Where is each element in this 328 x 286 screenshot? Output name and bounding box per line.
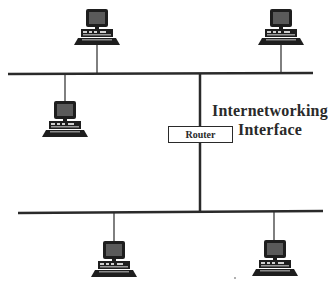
computer-icon-middle-left [42, 101, 88, 137]
computer-icon-bottom-right [252, 240, 298, 276]
top-network-bus [8, 73, 313, 74]
scan-speck [234, 277, 236, 279]
computer-icon-bottom-left [91, 241, 137, 277]
computer-icon-top-left [74, 9, 120, 45]
interface-label: Interface [238, 121, 302, 139]
computer-icon-top-right [258, 9, 304, 45]
router-label: Router [186, 129, 216, 140]
bottom-network-bus [18, 211, 323, 213]
internetworking-label: Internetworking [212, 102, 328, 120]
router-box: Router [168, 126, 233, 143]
